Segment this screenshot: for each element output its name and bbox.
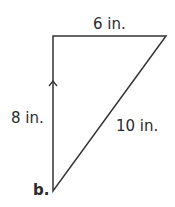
triangle-diagram — [0, 0, 175, 207]
left-side-label: 8 in. — [11, 111, 44, 126]
figure-label: b. — [33, 183, 49, 198]
top-side-label: 6 in. — [93, 17, 126, 32]
right-triangle — [53, 36, 166, 191]
hypotenuse-label: 10 in. — [116, 119, 158, 134]
